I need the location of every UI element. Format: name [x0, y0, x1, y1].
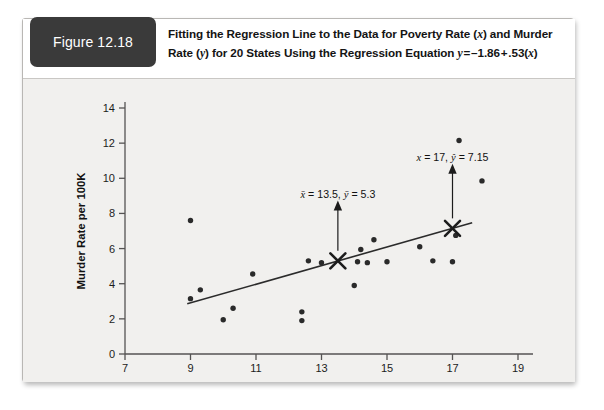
x-tick-label: 7 — [122, 362, 128, 374]
y-axis-ticks: 02468101214 — [103, 102, 125, 360]
data-point — [430, 258, 435, 263]
x-tick-label: 15 — [381, 362, 393, 374]
x-tick-label: 11 — [250, 362, 261, 374]
y-tick-label: 12 — [103, 137, 115, 149]
y-tick-label: 4 — [109, 278, 115, 290]
data-point — [456, 138, 461, 143]
data-point — [479, 178, 484, 183]
data-point — [198, 287, 203, 292]
caption-line-2: Rate (y) for 20 States Using the Regress… — [168, 46, 538, 59]
scatter-plot-area: 791113151719 02468101214 x̄ = 13.5, ȳ =… — [23, 79, 575, 382]
y-tick-label: 10 — [103, 172, 115, 184]
x-tick-label: 9 — [187, 362, 193, 374]
y-tick-label: 0 — [109, 348, 115, 360]
data-point — [365, 260, 370, 265]
data-point — [319, 260, 324, 265]
data-point — [417, 244, 422, 249]
regression-line — [187, 223, 472, 304]
y-tick-label: 6 — [109, 243, 115, 255]
annotation-group: x̄ = 13.5, ȳ = 5.3x = 17, ŷ = 7.15 — [299, 151, 488, 200]
axis-titles-group: Percent Individuals below PovertyMurder … — [75, 172, 420, 382]
data-point — [352, 283, 357, 288]
data-point — [371, 237, 376, 242]
mean-point-annotation-label: x̄ = 13.5, ȳ = 5.3 — [299, 188, 375, 200]
x-axis-ticks: 791113151719 — [122, 354, 524, 374]
x-tick-label: 19 — [512, 362, 524, 374]
data-point — [355, 259, 360, 264]
regression-line-path — [187, 223, 472, 304]
axes-group — [125, 102, 533, 354]
data-point — [358, 247, 363, 252]
data-point — [188, 218, 193, 223]
data-point — [221, 317, 226, 322]
figure-number-badge: Figure 12.18 — [30, 17, 156, 67]
data-point — [230, 306, 235, 311]
x-tick-label: 13 — [315, 362, 327, 374]
y-axis-title: Murder Rate per 100K — [75, 172, 87, 290]
scatter-plot-svg: 791113151719 02468101214 x̄ = 13.5, ȳ =… — [23, 79, 575, 382]
figure-caption-band: Figure 12.18 Fitting the Regression Line… — [23, 19, 575, 79]
y-tick-label: 8 — [109, 207, 115, 219]
marker-group — [330, 164, 460, 269]
x-axis-title: Percent Individuals below Poverty — [236, 380, 420, 382]
data-point — [306, 258, 311, 263]
data-point — [299, 309, 304, 314]
x-tick-label: 17 — [446, 362, 458, 374]
y-tick-label: 2 — [109, 313, 115, 325]
mean-point-arrow-head — [334, 201, 342, 211]
y-tick-label: 14 — [103, 102, 115, 114]
figure-caption-text: Fitting the Regression Line to the Data … — [168, 25, 566, 62]
data-point — [299, 318, 304, 323]
predicted-point-arrow-head — [448, 164, 456, 174]
data-point — [384, 259, 389, 264]
data-points-group — [188, 138, 485, 324]
predicted-point-annotation-label: x = 17, ŷ = 7.15 — [416, 151, 489, 163]
figure-card: Figure 12.18 Fitting the Regression Line… — [22, 18, 574, 382]
figure-number-label: Figure 12.18 — [53, 34, 133, 50]
data-point — [188, 296, 193, 301]
data-point — [250, 271, 255, 276]
data-point — [450, 259, 455, 264]
caption-line-1: Fitting the Regression Line to the Data … — [168, 27, 552, 40]
